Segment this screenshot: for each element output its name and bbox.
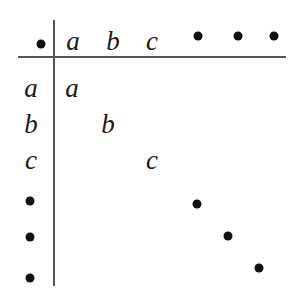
row-header-dot-icon <box>26 233 35 242</box>
row-header: b <box>24 111 38 138</box>
operation-table: abcabcabc <box>0 0 298 298</box>
table-cell: c <box>146 147 158 174</box>
table-cell: b <box>101 111 115 138</box>
column-header-dot-icon <box>234 32 243 41</box>
row-header: c <box>25 147 37 174</box>
column-header: c <box>146 28 158 55</box>
table-cell: a <box>65 75 79 102</box>
column-header-dot-icon <box>194 32 203 41</box>
row-header: a <box>24 75 38 102</box>
table-cell-dot-icon <box>255 264 264 273</box>
corner-operation-dot-icon <box>37 40 46 49</box>
horizontal-divider <box>18 56 286 58</box>
row-header-dot-icon <box>26 197 35 206</box>
table-cell-dot-icon <box>193 200 202 209</box>
column-header-dot-icon <box>270 32 279 41</box>
column-header: b <box>106 28 120 55</box>
vertical-divider <box>53 20 55 286</box>
column-header: a <box>66 28 80 55</box>
table-cell-dot-icon <box>224 232 233 241</box>
row-header-dot-icon <box>26 274 35 283</box>
